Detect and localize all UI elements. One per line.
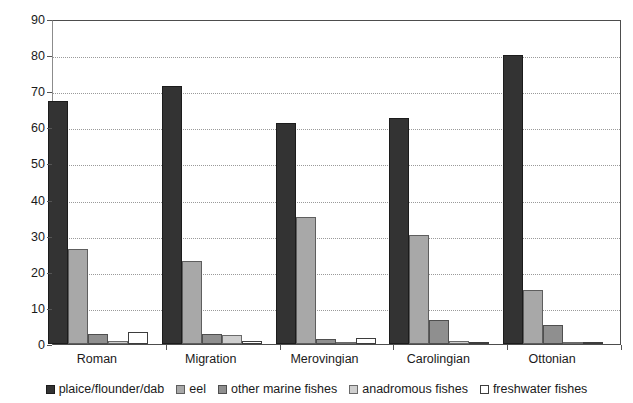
legend-item[interactable]: other marine fishes	[218, 383, 337, 396]
bar	[503, 55, 523, 344]
legend-item[interactable]: plaice/flounder/dab	[46, 383, 165, 396]
chart-legend: plaice/flounder/dabeelother marine fishe…	[0, 383, 633, 396]
y-axis-tick-mark	[47, 92, 52, 93]
y-axis-tick-mark	[47, 201, 52, 202]
bar-group-carolingian	[389, 21, 489, 344]
legend-label: plaice/flounder/dab	[59, 383, 165, 396]
x-axis-tick-mark	[621, 345, 622, 350]
legend-item[interactable]: anadromous fishes	[349, 383, 468, 396]
y-axis-tick-mark	[47, 128, 52, 129]
y-axis-tick-label: 90	[5, 14, 45, 27]
bar	[389, 118, 409, 344]
legend-item[interactable]: freshwater fishes	[480, 383, 587, 396]
bar	[108, 341, 128, 344]
bar-group-merovingian	[276, 21, 376, 344]
y-axis-tick-mark	[47, 345, 52, 346]
bar	[543, 325, 563, 345]
x-axis-tick-mark	[507, 345, 508, 350]
x-axis-tick-mark	[166, 345, 167, 350]
bar	[276, 123, 296, 344]
bar	[202, 334, 222, 344]
y-axis-tick-label: 0	[5, 339, 45, 352]
bar	[128, 332, 148, 344]
bar	[563, 342, 583, 344]
legend-swatch-icon	[218, 385, 227, 394]
bar	[222, 335, 242, 344]
bar-group-migration	[162, 21, 262, 344]
bar	[68, 249, 88, 344]
y-axis-tick-label: 10	[5, 303, 45, 316]
legend-label: anadromous fishes	[362, 383, 468, 396]
bar-chart: 0102030405060708090 RomanMigrationMerovi…	[0, 0, 633, 403]
bar	[409, 235, 429, 344]
y-axis-tick-mark	[47, 56, 52, 57]
y-axis-tick-label: 80	[5, 50, 45, 63]
bar	[429, 320, 449, 344]
legend-swatch-icon	[46, 385, 55, 394]
bar	[88, 334, 108, 344]
y-axis-tick-mark	[47, 20, 52, 21]
bar	[356, 338, 376, 344]
y-axis-tick-label: 70	[5, 86, 45, 99]
bar	[316, 339, 336, 344]
legend-item[interactable]: eel	[176, 383, 206, 396]
y-axis-tick-label: 60	[5, 122, 45, 135]
y-axis-tick-mark	[47, 309, 52, 310]
y-axis-tick-label: 50	[5, 158, 45, 171]
bar	[336, 342, 356, 344]
x-axis-tick-mark	[393, 345, 394, 350]
bar-group-ottonian	[503, 21, 603, 344]
x-axis-category-label: Roman	[77, 353, 117, 366]
bar	[583, 342, 603, 344]
x-axis-category-label: Migration	[185, 353, 236, 366]
x-axis-category-label: Carolingian	[407, 353, 470, 366]
legend-swatch-icon	[480, 385, 489, 394]
y-axis-tick-label: 40	[5, 194, 45, 207]
y-axis-tick-mark	[47, 237, 52, 238]
bar	[449, 341, 469, 344]
bar	[242, 341, 262, 344]
bar	[162, 86, 182, 344]
x-axis-category-label: Ottonian	[528, 353, 575, 366]
y-axis-tick-label: 20	[5, 267, 45, 280]
legend-label: other marine fishes	[231, 383, 337, 396]
plot-area	[52, 20, 621, 345]
legend-swatch-icon	[349, 385, 358, 394]
legend-label: eel	[189, 383, 206, 396]
y-axis-tick-mark	[47, 164, 52, 165]
bar	[523, 290, 543, 344]
bar	[469, 342, 489, 344]
x-axis-category-label: Merovingian	[290, 353, 358, 366]
y-axis-tick-label: 30	[5, 230, 45, 243]
y-axis-tick-mark	[47, 273, 52, 274]
x-axis-tick-mark	[280, 345, 281, 350]
legend-swatch-icon	[176, 385, 185, 394]
bar	[48, 101, 68, 344]
bar-group-roman	[48, 21, 148, 344]
bar	[182, 261, 202, 344]
legend-label: freshwater fishes	[493, 383, 587, 396]
bar	[296, 217, 316, 344]
